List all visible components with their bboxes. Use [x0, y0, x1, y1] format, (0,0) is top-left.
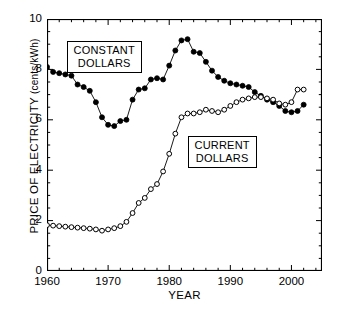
data-point: [81, 226, 86, 231]
data-point: [216, 110, 221, 115]
data-point: [173, 48, 178, 53]
constant-dollars-label-line1: CONSTANT: [74, 44, 135, 57]
data-point: [69, 225, 74, 230]
y-tick-label: 8: [8, 62, 42, 74]
current-dollars-label-line2: DOLLARS: [195, 152, 250, 165]
data-point: [155, 182, 160, 187]
data-point: [75, 225, 80, 230]
current-dollars-label: CURRENT DOLLARS: [188, 136, 257, 168]
data-point: [295, 87, 300, 92]
data-point: [136, 201, 141, 206]
data-point: [222, 78, 227, 83]
data-point: [161, 77, 166, 82]
x-tick-label: 1990: [208, 275, 252, 287]
data-point: [130, 97, 135, 102]
data-point: [148, 77, 153, 82]
plot-area: CONSTANT DOLLARS CURRENT DOLLARS: [47, 19, 322, 271]
data-point: [271, 97, 276, 102]
data-point: [240, 97, 245, 102]
data-point: [112, 226, 117, 231]
data-point: [142, 196, 147, 201]
data-point: [289, 100, 294, 105]
y-tick-label: 4: [8, 163, 42, 175]
data-point: [142, 86, 147, 91]
data-point: [93, 227, 98, 232]
data-point: [136, 87, 141, 92]
data-point: [228, 81, 233, 86]
data-point: [118, 224, 123, 229]
data-point: [289, 110, 294, 115]
data-point: [179, 115, 184, 120]
data-point: [283, 108, 288, 113]
data-point: [246, 85, 251, 90]
data-point: [100, 228, 105, 233]
series-line-current-dollars: [47, 90, 304, 231]
data-point: [197, 51, 202, 56]
data-point: [63, 224, 68, 229]
data-point: [301, 87, 306, 92]
constant-dollars-label-line2: DOLLARS: [74, 57, 135, 70]
data-point: [51, 69, 56, 74]
data-point: [258, 95, 263, 100]
y-tick-label: 6: [8, 112, 42, 124]
data-point: [185, 37, 190, 42]
data-point: [118, 119, 123, 124]
data-point: [301, 102, 306, 107]
data-point: [246, 96, 251, 101]
data-point: [69, 73, 74, 78]
data-point: [222, 107, 227, 112]
data-point: [191, 111, 196, 116]
data-point: [51, 223, 56, 228]
x-axis-title: YEAR: [47, 289, 322, 301]
data-point: [240, 83, 245, 88]
data-point: [57, 71, 62, 76]
data-point: [234, 100, 239, 105]
data-point: [167, 151, 172, 156]
data-point: [173, 131, 178, 136]
data-point: [228, 104, 233, 109]
data-point: [277, 101, 282, 106]
data-point: [148, 187, 153, 192]
data-point: [185, 111, 190, 116]
data-point: [124, 219, 129, 224]
data-point: [234, 82, 239, 87]
x-tick-label: 2000: [269, 275, 313, 287]
data-point: [47, 64, 50, 69]
constant-dollars-label: CONSTANT DOLLARS: [67, 41, 142, 73]
data-point: [75, 82, 80, 87]
data-point: [106, 122, 111, 127]
data-point: [191, 49, 196, 54]
data-point: [130, 211, 135, 216]
y-tick-label: 0: [8, 264, 42, 276]
x-tick-label: 1960: [25, 275, 69, 287]
figure: PRICE OF ELECTRICITY (cents/kWh) YEAR 02…: [0, 0, 345, 314]
data-point: [81, 85, 86, 90]
y-tick-label: 10: [8, 12, 42, 24]
data-point: [87, 88, 92, 93]
x-tick-label: 1970: [86, 275, 130, 287]
data-point: [112, 124, 117, 129]
data-point: [57, 224, 62, 229]
y-tick-label: 2: [8, 213, 42, 225]
data-point: [167, 63, 172, 68]
data-point: [210, 109, 215, 114]
data-point: [87, 226, 92, 231]
data-point: [283, 102, 288, 107]
x-tick-label: 1980: [147, 275, 191, 287]
data-point: [155, 76, 160, 81]
data-point: [203, 107, 208, 112]
data-point: [179, 38, 184, 43]
data-point: [124, 117, 129, 122]
data-point: [197, 110, 202, 115]
data-point: [161, 169, 166, 174]
current-dollars-label-line1: CURRENT: [195, 139, 250, 152]
data-point: [203, 59, 208, 64]
data-point: [106, 227, 111, 232]
data-point: [93, 100, 98, 105]
data-point: [295, 108, 300, 113]
data-point: [265, 96, 270, 101]
data-point: [216, 74, 221, 79]
data-point: [47, 223, 49, 228]
data-point: [100, 115, 105, 120]
data-point: [252, 95, 257, 100]
